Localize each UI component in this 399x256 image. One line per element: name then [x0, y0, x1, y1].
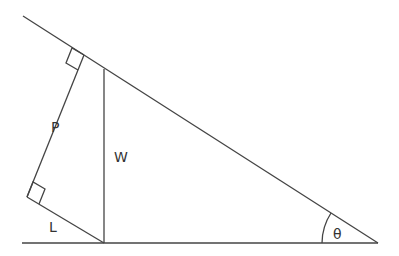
angle-arc-theta [322, 213, 331, 243]
label-theta: θ [333, 226, 342, 242]
diagram-canvas: P W L θ [0, 0, 399, 256]
right-angle-marker-bottom [27, 182, 45, 204]
label-w: W [114, 149, 128, 165]
component-line-l [27, 197, 104, 243]
label-p: P [51, 119, 59, 135]
right-angle-marker-top [66, 48, 84, 70]
label-l: L [49, 219, 57, 235]
